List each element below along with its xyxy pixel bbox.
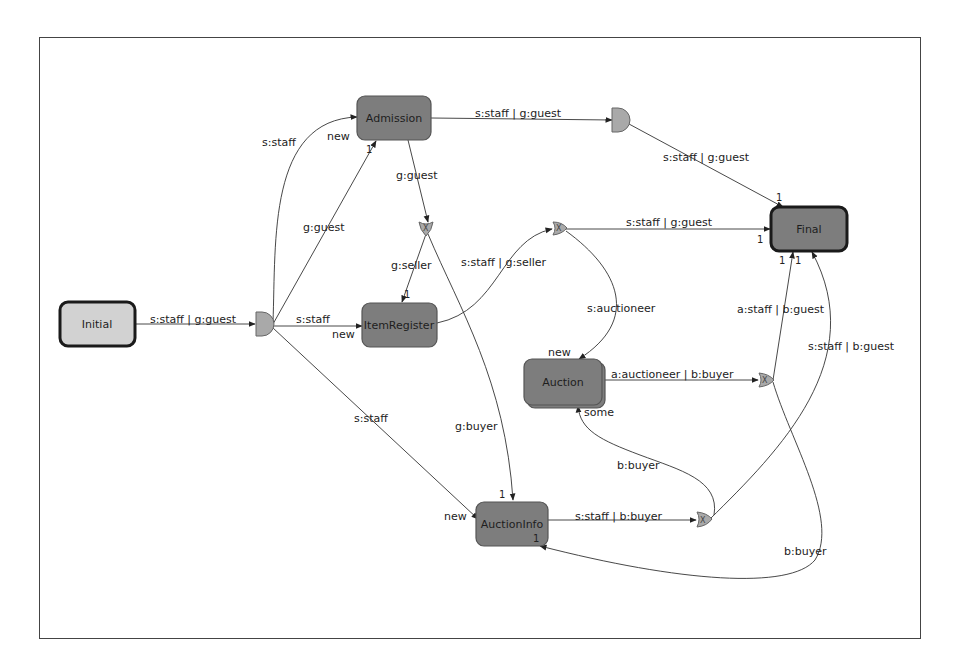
annotation-multiplicity: 1 <box>404 289 410 300</box>
svg-text:Admission: Admission <box>366 112 422 125</box>
annotation-new: new <box>332 328 355 341</box>
edge-label: s:staff | g:seller <box>461 256 547 269</box>
node-auction[interactable]: Auction <box>524 359 605 408</box>
edge-label: a:auctioneer | b:buyer <box>611 368 734 381</box>
edge-label: a:staff | b:guest <box>737 303 825 316</box>
edge-label: s:staff <box>262 136 296 149</box>
edge-xor3-to-auctioninfo[interactable] <box>540 382 822 578</box>
annotation-multiplicity: 1 <box>757 234 763 245</box>
node-admission[interactable]: Admission <box>357 96 431 140</box>
edge-label: s:staff | g:guest <box>475 107 562 120</box>
edge-xor4-to-final[interactable] <box>710 252 831 519</box>
svg-text:X: X <box>556 224 562 233</box>
edge-label: g:seller <box>391 259 432 272</box>
edge-xor2-to-auction[interactable] <box>566 231 616 359</box>
xor-gate-3[interactable]: X <box>759 373 774 387</box>
node-itemregister[interactable]: ItemRegister <box>362 303 437 347</box>
edge-label: s:staff <box>354 412 388 425</box>
workflow-diagram: X X X X Initial Admission ItemRegister <box>0 0 958 671</box>
annotation-multiplicity: 1 <box>776 192 782 203</box>
edge-xor1-to-auctioninfo[interactable] <box>428 234 513 500</box>
edge-label: s:staff | b:buyer <box>575 510 662 523</box>
edge-label: s:staff | b:guest <box>808 340 895 353</box>
edge-label: b:buyer <box>784 545 827 558</box>
svg-text:ItemRegister: ItemRegister <box>364 319 435 332</box>
annotation-multiplicity: 1 <box>366 144 372 155</box>
svg-text:Final: Final <box>796 223 821 236</box>
annotation-new: new <box>327 130 350 143</box>
annotation-new: new <box>444 510 467 523</box>
edge-xor3-to-final[interactable] <box>773 252 793 380</box>
edge-label: s:staff | g:guest <box>626 216 713 229</box>
svg-text:X: X <box>423 224 429 233</box>
edge-label: g:buyer <box>455 420 498 433</box>
edge-label: s:staff | g:guest <box>150 313 237 326</box>
and-gate-1[interactable] <box>256 312 274 336</box>
edge-label: g:guest <box>396 169 438 182</box>
annotation-multiplicity: 1 <box>779 255 785 266</box>
annotation-multiplicity: 1 <box>533 533 539 544</box>
node-initial[interactable]: Initial <box>60 302 135 346</box>
edge-itemregister-to-xor2[interactable] <box>437 229 552 323</box>
xor-gate-4[interactable]: X <box>697 512 712 527</box>
svg-text:Initial: Initial <box>82 318 112 331</box>
gates: X X X X <box>256 108 774 527</box>
annotation-multiplicity: 1 <box>499 489 505 500</box>
edge-label: g:guest <box>303 221 345 234</box>
xor-gate-1[interactable]: X <box>419 222 433 236</box>
annotation-multiplicity: 1 <box>795 255 801 266</box>
edge-label: s:auctioneer <box>587 302 656 315</box>
edge-label: b:buyer <box>617 459 660 472</box>
edge-label: s:staff <box>296 313 330 326</box>
svg-text:X: X <box>762 376 768 385</box>
and-gate-2[interactable] <box>612 108 630 132</box>
svg-text:AuctionInfo: AuctionInfo <box>481 518 544 531</box>
annotation-new: new <box>548 346 571 359</box>
xor-gate-2[interactable]: X <box>553 222 567 235</box>
node-final[interactable]: Final <box>771 207 847 251</box>
svg-text:Auction: Auction <box>542 376 584 389</box>
svg-text:X: X <box>700 516 706 525</box>
edge-and2-to-final[interactable] <box>629 124 783 207</box>
annotation-some: some <box>584 406 614 419</box>
edge-label: s:staff | g:guest <box>663 151 750 164</box>
